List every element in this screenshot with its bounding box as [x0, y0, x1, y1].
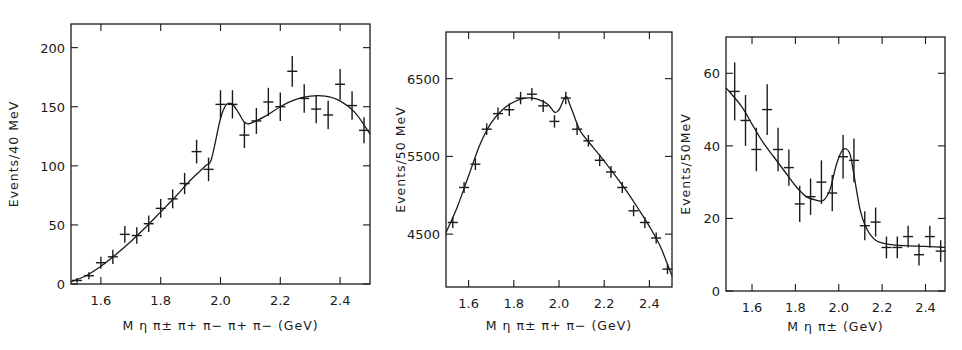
x-axis-label: M η π± π+ π− (GeV) — [486, 318, 632, 333]
data-point — [871, 208, 881, 237]
data-point — [84, 272, 94, 279]
data-point — [323, 101, 333, 129]
data-point — [251, 108, 261, 134]
plot-frame — [71, 24, 370, 284]
data-point — [606, 166, 616, 178]
data-point — [795, 186, 805, 222]
x-tick-label: 1.6 — [91, 293, 112, 308]
data-point — [881, 237, 891, 259]
data-point — [936, 240, 946, 262]
y-tick-label: 60 — [703, 66, 720, 81]
x-tick-label: 1.6 — [458, 296, 479, 311]
x-tick-label: 1.8 — [785, 300, 806, 315]
data-point — [120, 226, 130, 243]
data-point — [108, 250, 118, 264]
data-point — [838, 135, 848, 179]
data-point — [572, 123, 582, 135]
data-point — [516, 92, 526, 104]
data-point — [192, 140, 202, 164]
data-point — [504, 104, 514, 116]
data-point — [751, 128, 761, 172]
data-point — [925, 226, 935, 248]
fit-curve — [726, 88, 945, 248]
x-tick-label: 2.0 — [828, 300, 849, 315]
chart-panel-1: 1.61.82.02.22.4050100150200M η π± π+ π− … — [6, 24, 370, 333]
y-tick-label: 50 — [48, 218, 65, 233]
y-axis-label: Events/50MeV — [678, 113, 693, 214]
data-point — [741, 95, 751, 146]
y-tick-label: 6500 — [407, 72, 440, 87]
data-point — [892, 237, 902, 259]
x-tick-label: 2.2 — [270, 293, 291, 308]
data-point — [459, 182, 469, 193]
data-point — [914, 244, 924, 266]
data-point — [96, 257, 106, 269]
chart-panel-2: 1.61.82.02.22.4450055006500M η π± π+ π− … — [393, 32, 672, 333]
y-tick-label: 150 — [40, 100, 65, 115]
y-tick-label: 100 — [40, 159, 65, 174]
x-tick-label: 1.8 — [503, 296, 524, 311]
data-point — [359, 117, 369, 143]
data-point — [275, 93, 285, 121]
x-tick-label: 2.4 — [915, 300, 936, 315]
data-point — [816, 160, 826, 204]
data-point — [168, 189, 178, 208]
data-point — [311, 95, 321, 123]
data-point — [216, 90, 226, 118]
y-tick-label: 4500 — [407, 227, 440, 242]
x-tick-label: 2.2 — [872, 300, 893, 315]
fit-curve — [446, 96, 672, 276]
data-point — [651, 233, 661, 244]
figure: 1.61.82.02.22.4050100150200M η π± π+ π− … — [0, 0, 962, 350]
x-tick-label: 2.0 — [549, 296, 570, 311]
data-point — [287, 56, 297, 87]
x-axis-label: M η π± (GeV) — [787, 319, 883, 334]
x-tick-label: 2.4 — [330, 293, 351, 308]
y-tick-label: 40 — [703, 139, 720, 154]
data-point — [806, 179, 816, 215]
y-tick-label: 0 — [712, 284, 720, 299]
x-tick-label: 2.2 — [594, 296, 615, 311]
data-point — [132, 227, 142, 244]
data-point — [827, 175, 837, 211]
x-tick-label: 1.6 — [742, 300, 763, 315]
x-tick-label: 1.8 — [150, 293, 171, 308]
data-point — [903, 226, 913, 248]
data-point — [773, 128, 783, 172]
data-point — [595, 154, 605, 166]
x-tick-label: 2.0 — [210, 293, 231, 308]
y-tick-label: 20 — [703, 211, 720, 226]
data-point — [849, 139, 859, 183]
data-point — [784, 149, 794, 185]
chart-panel-3: 1.61.82.02.22.40204060M η π± (GeV)Events… — [678, 37, 946, 334]
data-point — [762, 84, 772, 135]
x-axis-label: M η π± π+ π− π+ π− (GeV) — [122, 318, 318, 333]
data-point — [617, 182, 627, 193]
y-axis-label: Events/40 MeV — [6, 101, 21, 207]
y-axis-label: Events/50 MeV — [393, 106, 408, 212]
plot-frame — [446, 32, 672, 287]
data-point — [144, 215, 154, 232]
data-point — [730, 62, 740, 120]
data-point — [335, 69, 345, 100]
data-point — [299, 84, 309, 112]
y-tick-label: 0 — [57, 277, 65, 292]
data-point — [347, 91, 357, 119]
x-tick-label: 2.4 — [639, 296, 660, 311]
data-point — [640, 217, 650, 228]
data-point — [239, 122, 249, 148]
plot-frame — [726, 37, 945, 291]
data-point — [204, 158, 214, 182]
data-point — [538, 100, 548, 112]
y-tick-label: 5500 — [407, 149, 440, 164]
y-tick-label: 200 — [40, 41, 65, 56]
data-point — [549, 115, 559, 127]
fit-curve — [71, 96, 370, 282]
data-point — [227, 90, 237, 118]
